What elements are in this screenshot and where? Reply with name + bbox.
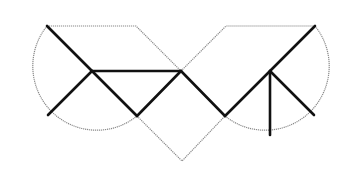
geometric-figure	[0, 0, 352, 185]
figure-outline	[33, 26, 329, 161]
dissection-lines	[47, 26, 315, 135]
left-lower-radius-line	[48, 71, 92, 115]
left-top-edge	[47, 26, 181, 71]
junction-right-line	[181, 71, 225, 116]
lower-diamond-edges	[137, 116, 225, 161]
right-top-edge	[181, 26, 315, 71]
right-lower-radius-line	[270, 71, 314, 115]
junction-left-line	[137, 71, 181, 116]
